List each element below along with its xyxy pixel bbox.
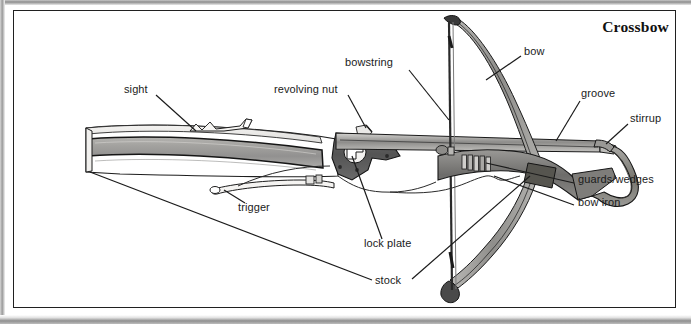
trigger-pivot-block [316,175,322,183]
wedge [462,155,467,169]
figure-title: Crossbow [602,18,669,36]
leader-bowstring [409,70,449,120]
bow-upper-tip [444,16,460,25]
label-groove: groove [581,87,615,99]
label-bowstring: bowstring [345,56,393,68]
wedge [474,156,479,171]
label-trigger: trigger [238,201,270,213]
label-stirrup: stirrup [630,112,661,124]
label-bow: bow [524,45,544,57]
crossbow-illustration [0,0,691,324]
bow-iron [438,150,592,200]
label-stock: stock [375,274,401,286]
lock-rivet [385,154,389,158]
stock-butt-cap [86,128,92,172]
wedge [480,156,485,171]
groove-rail [336,133,600,152]
label-revolving-nut: revolving nut [274,83,338,95]
leader-stirrup [606,124,628,144]
trigger-pivot-block [306,176,314,184]
label-lock-plate: lock plate [364,237,411,249]
leader-groove [556,101,580,141]
lock-rivet [338,165,342,169]
wedge [468,155,473,170]
label-sight: sight [124,83,148,95]
trigger-tip [210,187,220,194]
iron-knob [436,146,448,155]
figure-page: Crossbow sight revolving nut bowstring b… [0,0,691,324]
label-guards-wedges: guards/wedges [578,173,654,185]
label-bow-iron: bow iron [578,196,620,208]
leader-revolving-nut [348,95,366,128]
iron-collar [448,147,454,155]
